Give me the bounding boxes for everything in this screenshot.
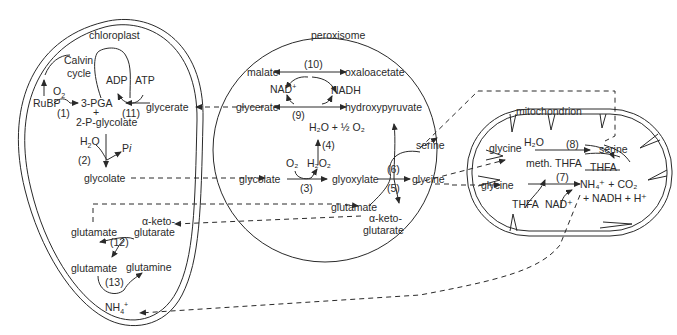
glycine-mito-2: glycine <box>481 180 514 191</box>
hydroxypyruvate: hydroxypyruvate <box>345 102 422 113</box>
water-half-oxygen: H₂O + ½ O₂ <box>309 122 365 133</box>
reaction-13: (13) <box>105 277 124 288</box>
mitochondrion-title: mitochondrion <box>516 106 582 117</box>
o2-peroxisome: O₂ <box>286 158 298 169</box>
alpha-ketoglutarate-peroxisome-2: glutarate <box>363 225 404 236</box>
pi: Pi <box>122 143 131 154</box>
glycerate-chloroplast: glycerate <box>146 102 189 113</box>
serine-peroxisome: serine <box>416 140 445 151</box>
calvin-cycle-label-2: cycle <box>67 68 91 79</box>
malate: malate <box>247 67 279 78</box>
mitochondrion-outer-membrane <box>467 109 672 236</box>
nad-peroxisome: NAD+ <box>270 84 296 95</box>
glyoxylate: glyoxylate <box>332 174 379 185</box>
peroxisome-title: peroxisome <box>311 30 365 41</box>
serine-mito: serine <box>599 144 628 155</box>
glutamine: glutamine <box>126 262 172 273</box>
reaction-3: (3) <box>300 183 313 194</box>
adp: ADP <box>106 75 128 86</box>
h2o-chloroplast: H2O <box>80 136 100 147</box>
reaction-10: (10) <box>304 59 323 70</box>
reaction-1: (1) <box>57 108 70 119</box>
glycerate-peroxisome: glycerate <box>236 102 279 113</box>
glycolate-chloroplast: glycolate <box>84 173 125 184</box>
glycine-peroxisome: glycine <box>412 174 445 185</box>
o2-chloroplast: O2 <box>53 86 65 97</box>
reaction-2: (2) <box>78 155 91 166</box>
reaction-7: (7) <box>556 172 569 183</box>
glutamate-chloroplast-2: glutamate <box>71 263 117 274</box>
calvin-cycle-label-1: Calvin <box>64 55 93 66</box>
reaction-6: (6) <box>387 164 400 175</box>
thfa-mito-1: THFA <box>590 162 617 173</box>
nadh-h: + NADH + H⁺ <box>583 193 647 204</box>
nh4-chloroplast: NH4+ <box>105 302 128 313</box>
oxaloacetate: oxaloacetate <box>345 67 405 78</box>
atp: ATP <box>135 75 155 86</box>
reaction-8: (8) <box>566 139 579 150</box>
reaction-11: (11) <box>122 108 140 119</box>
meth-thfa: meth. THFA <box>526 158 582 169</box>
reaction-9: (9) <box>292 110 305 121</box>
glycolate-peroxisome: glycolate <box>239 174 280 185</box>
alpha-ketoglutarate-peroxisome-1: α-keto- <box>369 213 402 224</box>
nadh-peroxisome: NADH <box>331 85 361 96</box>
mitochondrion-inner-membrane <box>472 114 667 231</box>
thfa-mito-2: THFA <box>512 199 539 210</box>
h2o-mito: H₂O <box>524 137 544 148</box>
nh4-co2: NH₄⁺ + CO₂ <box>580 179 637 190</box>
glycine-mito-1: glycine <box>489 143 522 154</box>
reaction-4: (4) <box>322 140 335 151</box>
alpha-ketoglutarate-chloroplast-2: glutarate <box>134 227 175 238</box>
reaction-5: (5) <box>387 183 400 194</box>
chloroplast-title: chloroplast <box>89 30 140 41</box>
nad-mito: NAD⁺ <box>545 199 573 210</box>
reaction-12: (12) <box>110 237 129 248</box>
h2o2: H₂O₂ <box>307 158 331 169</box>
